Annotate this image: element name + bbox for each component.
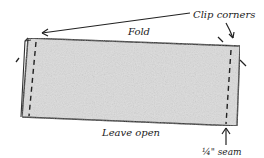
clip-mark-right bbox=[240, 60, 246, 66]
seam-label: ¼" seam bbox=[202, 147, 242, 157]
seam-arrow bbox=[222, 128, 230, 145]
clip-corners-arrow-left bbox=[42, 13, 190, 36]
clip-corners-label: Clip corners bbox=[193, 9, 255, 20]
fabric-panel bbox=[21, 38, 240, 126]
clip-mark-top-right bbox=[218, 37, 223, 42]
clip-mark-left bbox=[16, 58, 19, 62]
fold-label: Fold bbox=[127, 26, 150, 37]
sewing-diagram: Fold Clip corners Leave open ¼" seam bbox=[0, 0, 264, 158]
clip-corners-arrow-right bbox=[226, 23, 234, 38]
leave-open-label: Leave open bbox=[101, 127, 160, 138]
